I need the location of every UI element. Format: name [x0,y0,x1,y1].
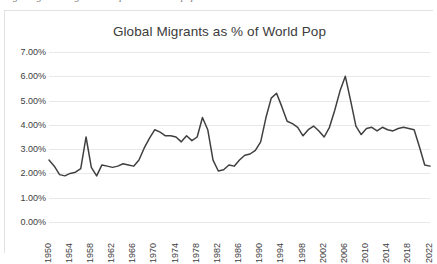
x-tick-label: 1982 [212,243,222,263]
x-tick-label: 1950 [43,243,53,263]
plot-area [49,52,430,222]
x-tick-label: 1974 [170,243,180,263]
x-tick-label: 2006 [339,243,349,263]
x-tick-label: 2022 [424,243,434,263]
y-tick-label: 1.00% [20,193,46,203]
y-axis: 0.00%1.00%2.00%3.00%4.00%5.00%6.00%7.00% [5,52,46,222]
chart-container: Global Migrants as % of World Pop 0.00%1… [4,10,433,253]
y-tick-label: 6.00% [20,71,46,81]
series-polyline [49,76,430,176]
gridline [49,222,430,223]
y-tick-label: 7.00% [20,47,46,57]
x-tick-label: 1986 [233,243,243,263]
x-tick-label: 1954 [64,243,74,263]
x-tick-label: 1998 [297,243,307,263]
x-tick-label: 1966 [127,243,137,263]
x-tick-label: 1958 [85,243,95,263]
x-tick-label: 1978 [191,243,201,263]
x-tick-label: 1994 [275,243,285,263]
y-tick-label: 0.00% [20,217,46,227]
line-series [49,52,430,222]
x-tick-label: 1970 [148,243,158,263]
x-tick-label: 2014 [381,243,391,263]
y-tick-label: 3.00% [20,144,46,154]
x-axis: 1950195419581962196619701974197819821986… [49,224,430,264]
x-tick-label: 2018 [402,243,412,263]
x-tick-label: 1990 [254,243,264,263]
x-tick-label: 1962 [106,243,116,263]
x-tick-label: 2002 [318,243,328,263]
chart-title: Global Migrants as % of World Pop [5,24,434,39]
y-tick-label: 4.00% [20,120,46,130]
y-tick-label: 2.00% [20,168,46,178]
x-tick-label: 2010 [360,243,370,263]
y-tick-label: 5.00% [20,96,46,106]
clipped-caption-above-chart: Figure: global migrants compared to worl… [0,0,437,5]
